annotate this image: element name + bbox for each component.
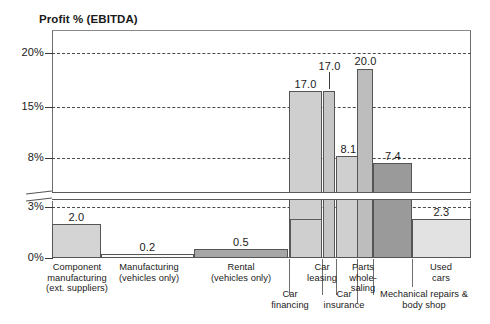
bar-mechanical-repairs-lower — [373, 200, 412, 258]
xlabel-used-cars: Used cars — [411, 262, 471, 283]
bar-used-cars — [412, 219, 471, 258]
ylabel-15: 15% — [21, 100, 44, 112]
ytick-0 — [45, 258, 53, 259]
bar-parts-wholesaling-upper — [357, 69, 373, 192]
bar-component-manufacturing — [52, 224, 101, 258]
bar-car-financing-lower — [289, 200, 322, 258]
value-label-car-insurance: 8.1 — [327, 143, 370, 155]
ylabel-20: 20% — [21, 46, 44, 58]
gridline-20 — [52, 53, 471, 54]
value-label-parts-wholesaling: 20.0 — [342, 55, 389, 67]
axis-break-mark-upper — [26, 190, 52, 194]
ylabel-8: 8% — [28, 151, 44, 163]
ytick-20 — [45, 53, 53, 54]
profit-ebitda-chart: Profit % (EBITDA) 20% 15% 8% 3% 0% — [0, 0, 490, 324]
value-label-car-financing: 17.0 — [282, 78, 329, 90]
bar-manufacturing-vehicles — [101, 254, 194, 258]
bar-mechanical-repairs-upper — [373, 163, 412, 192]
ytick-8 — [45, 158, 53, 159]
chart-title: Profit % (EBITDA) — [39, 13, 138, 25]
xlabel-mechanical-repairs: Mechanical repairs & body shop — [362, 289, 486, 310]
xlabel-car-leasing: Car leasing — [300, 262, 344, 283]
car-leasing-callout-tick — [329, 72, 330, 89]
xlabel-manufacturing-vehicles: Manufacturing (vehicles only) — [105, 262, 193, 283]
value-label-used-cars: 2.3 — [412, 206, 471, 218]
ytick-15 — [45, 107, 53, 108]
value-label-rental-vehicles: 0.5 — [194, 236, 288, 248]
bar-car-financing-upper — [289, 91, 322, 192]
ytick-3 — [45, 207, 53, 208]
xlabel-rental-vehicles: Rental (vehicles only) — [196, 262, 286, 283]
xlabel-car-financing: Car financing — [262, 289, 318, 310]
gridline-15 — [52, 107, 471, 108]
car-financing-inner-line-left — [290, 219, 291, 258]
bar-car-leasing-lower — [323, 200, 335, 258]
bar-parts-wholesaling-lower — [357, 200, 373, 258]
car-financing-inner-line — [290, 219, 321, 220]
bar-car-leasing-upper — [323, 91, 335, 192]
bar-rental-vehicles — [194, 249, 288, 258]
value-label-component-manufacturing: 2.0 — [52, 211, 101, 223]
value-label-mechanical-repairs: 7.4 — [372, 150, 414, 162]
value-label-manufacturing-vehicles: 0.2 — [101, 241, 194, 253]
ylabel-3: 3% — [28, 200, 44, 212]
